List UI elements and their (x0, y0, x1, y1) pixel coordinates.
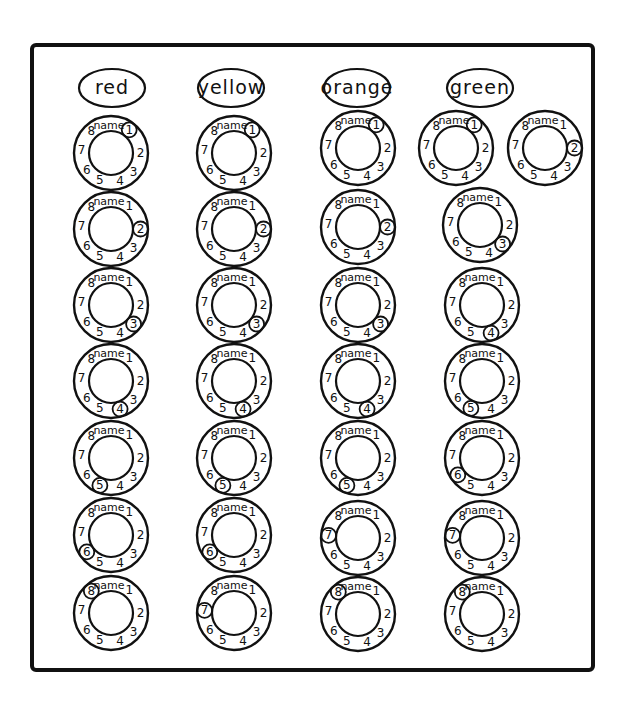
name-ring: name12345678 (74, 421, 148, 495)
ring-number: 1 (496, 584, 504, 598)
ring-inner-circle (89, 436, 133, 480)
ring-number: 4 (116, 479, 124, 493)
ring-number: 5 (96, 555, 104, 569)
ring-number: 4 (363, 326, 371, 340)
ring-number: 8 (87, 200, 95, 214)
name-ring: name12345678 (74, 344, 148, 418)
ring-number: 7 (449, 295, 457, 309)
ring-number: 3 (475, 160, 483, 174)
ring-inner-circle (336, 436, 380, 480)
ring-name-label: name (438, 114, 469, 127)
ring-number: 1 (372, 428, 380, 442)
ring-number: 8 (210, 124, 218, 138)
ring-number: 7 (423, 138, 431, 152)
ring-number: 6 (330, 391, 338, 405)
ring-number: 6 (517, 158, 525, 172)
ring-inner-circle (460, 436, 504, 480)
name-ring: name12345678 (445, 421, 519, 495)
column-header-green: green (447, 69, 513, 107)
ring-number: 3 (130, 625, 138, 639)
column-header-yellow: yellow (198, 69, 265, 107)
ring-number: 3 (253, 165, 261, 179)
ring-number: 3 (501, 470, 509, 484)
ring-number: 2 (137, 298, 145, 312)
ring-name-label: name (93, 271, 124, 284)
ring-name-label: name (340, 271, 371, 284)
ring-number: 7 (201, 219, 209, 233)
ring-number: 2 (260, 606, 268, 620)
ring-number: 6 (452, 235, 460, 249)
name-ring: name12345678 (197, 421, 271, 495)
ring-number: 1 (125, 275, 133, 289)
ring-number: 4 (487, 326, 495, 340)
name-ring: name12345678 (74, 192, 148, 266)
ring-number: 4 (116, 250, 124, 264)
name-ring: name12345678 (321, 344, 395, 418)
ring-number: 8 (458, 585, 466, 599)
ring-name-label: name (464, 504, 495, 517)
ring-number: 3 (253, 241, 261, 255)
ring-number: 3 (253, 470, 261, 484)
name-ring: name12345678 (443, 188, 517, 262)
ring-number: 1 (559, 118, 567, 132)
ring-number: 2 (384, 531, 392, 545)
ring-number: 4 (116, 402, 124, 416)
ring-number: 8 (87, 506, 95, 520)
ring-number: 1 (496, 275, 504, 289)
ring-number: 3 (377, 317, 385, 331)
ring-number: 7 (78, 219, 86, 233)
ring-number: 8 (87, 124, 95, 138)
ring-number: 1 (470, 118, 478, 132)
ring-number: 5 (343, 478, 351, 492)
ring-number: 3 (130, 241, 138, 255)
ring-inner-circle (212, 359, 256, 403)
ring-number: 8 (456, 196, 464, 210)
worksheet-diagram: redyelloworangegreen name12345678name123… (0, 0, 624, 707)
header-label: green (450, 76, 510, 98)
ring-number: 7 (78, 448, 86, 462)
ring-number: 7 (201, 143, 209, 157)
ring-number: 4 (239, 174, 247, 188)
ring-number: 6 (206, 545, 214, 559)
ring-number: 4 (239, 402, 247, 416)
ring-name-label: name (464, 347, 495, 360)
name-ring: name12345678 (197, 498, 271, 572)
ring-name-label: name (340, 504, 371, 517)
ring-name-label: name (216, 195, 247, 208)
ring-number: 3 (253, 317, 261, 331)
ring-inner-circle (460, 359, 504, 403)
ring-number: 8 (87, 352, 95, 366)
ring-number: 1 (372, 351, 380, 365)
ring-number: 5 (343, 401, 351, 415)
ring-number: 4 (116, 634, 124, 648)
ring-number: 7 (201, 603, 209, 617)
ring-number: 6 (428, 158, 436, 172)
ring-number: 4 (239, 479, 247, 493)
column-header-red: red (79, 69, 145, 107)
ring-number: 2 (384, 220, 392, 234)
ring-number: 4 (550, 169, 558, 183)
ring-number: 8 (87, 276, 95, 290)
ring-number: 7 (512, 138, 520, 152)
ring-number: 1 (125, 583, 133, 597)
name-ring: name12345678 (321, 501, 395, 575)
ring-number: 4 (487, 402, 495, 416)
ring-number: 8 (334, 585, 342, 599)
ring-number: 5 (96, 173, 104, 187)
ring-number: 3 (253, 393, 261, 407)
ring-number: 2 (260, 528, 268, 542)
ring-number: 1 (125, 199, 133, 213)
ring-number: 5 (219, 249, 227, 263)
name-ring: name12345678 (508, 111, 582, 185)
ring-number: 4 (487, 635, 495, 649)
ring-number: 4 (239, 326, 247, 340)
ring-number: 5 (343, 247, 351, 261)
ring-number: 7 (78, 603, 86, 617)
ring-number: 3 (253, 547, 261, 561)
ring-number: 7 (201, 295, 209, 309)
ring-number: 8 (458, 352, 466, 366)
ring-name-label: name (464, 424, 495, 437)
ring-number: 6 (330, 624, 338, 638)
ring-number: 5 (219, 478, 227, 492)
name-ring: name12345678 (321, 268, 395, 342)
